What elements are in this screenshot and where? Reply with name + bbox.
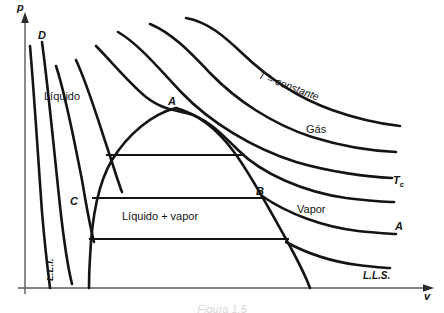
region-label-liquido-vapor: Líquido + vapor — [122, 211, 198, 222]
phase-diagram-figure — [0, 0, 444, 313]
y-axis-arrowhead — [21, 12, 29, 23]
x-axis-label: v — [424, 291, 430, 302]
label-upper-limit-lls: L.L.S. — [363, 271, 390, 281]
isotherm-curve-6-vapor — [286, 242, 390, 268]
point-label-d: D — [38, 30, 46, 41]
isotherm-curve-critical-tc — [96, 46, 394, 202]
curve-label-lower-isotherm: A — [395, 221, 403, 232]
label-lower-limit-lli: L.L.I. — [46, 258, 55, 281]
curve-label-tc-main: T — [393, 174, 400, 186]
isotherm-curve-2 — [150, 24, 396, 152]
point-label-c: C — [70, 196, 78, 207]
region-label-vapor: Vapor — [297, 204, 326, 215]
isotherms-group — [30, 18, 400, 288]
isotherm-curve-5 — [76, 60, 122, 192]
figure-caption: Figura 1.5 — [0, 303, 444, 313]
region-label-gas: Gás — [306, 124, 326, 135]
curve-label-tc-subscript: c — [400, 180, 404, 189]
axes-group — [18, 12, 434, 294]
region-label-liquido: Líquido — [44, 91, 80, 102]
point-label-b: B — [256, 186, 264, 197]
curve-label-critical-isotherm: Tc — [393, 175, 404, 189]
isotherm-curve-1 — [186, 18, 400, 126]
point-label-a-critical: A — [168, 96, 176, 107]
y-axis-label: p — [17, 2, 24, 13]
